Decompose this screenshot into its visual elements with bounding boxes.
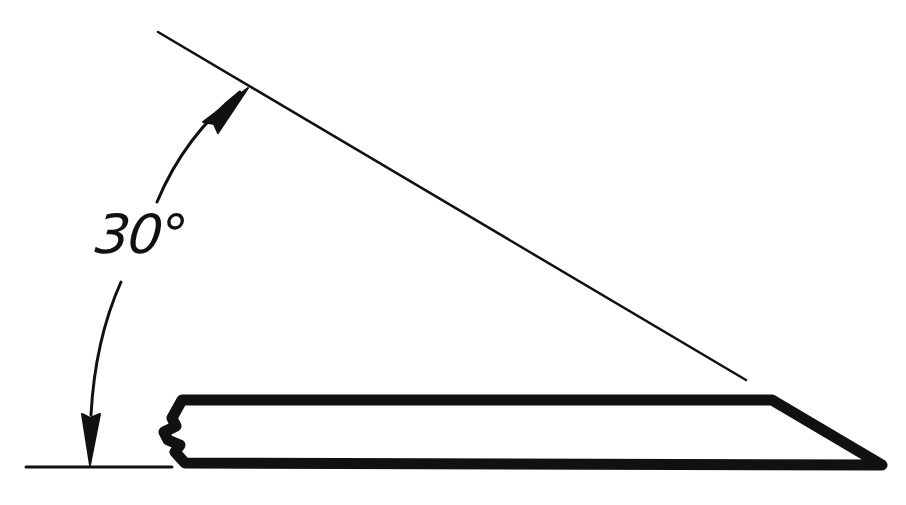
- strip-outline: [164, 400, 882, 465]
- arrowhead-upper-icon: [203, 88, 248, 133]
- arrowhead-lower-icon: [82, 414, 100, 465]
- angle-diagram: 30°: [0, 0, 906, 505]
- angle-label: 30°: [93, 208, 188, 262]
- angle-arc-lower: [91, 282, 121, 415]
- inclined-line: [158, 32, 746, 380]
